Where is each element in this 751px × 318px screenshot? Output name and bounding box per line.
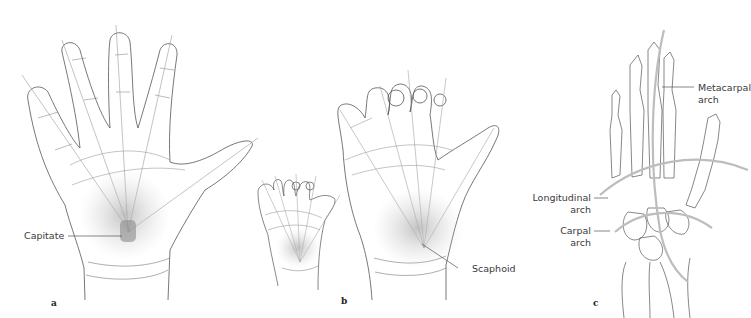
label-carpal-arch: Carpal arch <box>548 225 591 249</box>
label-scaphoid: Scaphoid <box>472 263 516 275</box>
label-metacarpal-line2: arch <box>698 94 751 106</box>
label-longitudinal-line1: Longitudinal <box>528 192 591 204</box>
label-longitudinal-arch: Longitudinal arch <box>528 192 591 216</box>
panel-letter-b: b <box>341 296 347 306</box>
label-carpal-line1: Carpal <box>548 225 591 237</box>
panel-c-arches <box>600 30 748 282</box>
label-longitudinal-line2: arch <box>528 204 591 216</box>
capitate-bone <box>120 220 136 242</box>
label-metacarpal-arch: Metacarpal arch <box>698 82 751 106</box>
carpal-arch-curve <box>615 213 712 232</box>
label-metacarpal-line1: Metacarpal <box>698 82 751 94</box>
longitudinal-arch-curve <box>653 30 688 282</box>
panel-letter-c: c <box>593 298 598 308</box>
label-capitate: Capitate <box>24 230 64 242</box>
panel-letter-a: a <box>51 298 57 308</box>
panel-a-bone-shading <box>80 170 170 260</box>
label-carpal-line2: arch <box>548 237 591 249</box>
